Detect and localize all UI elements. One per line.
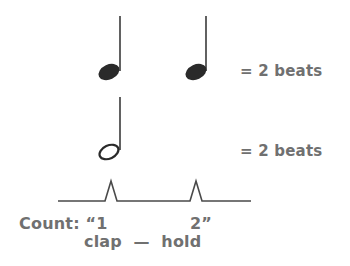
clap-hold-text: clap — hold <box>84 232 201 251</box>
count-beat-2: 2” <box>190 214 212 233</box>
half-note-icon <box>97 97 121 162</box>
quarter-note-icon <box>96 16 122 83</box>
quarter-note-icon <box>183 16 209 83</box>
beat-pulse-line <box>58 181 251 201</box>
quarter-notes-equation: = 2 beats <box>240 62 322 80</box>
count-label: Count: “1 <box>19 214 108 233</box>
half-note-equation: = 2 beats <box>240 142 322 160</box>
clap-hold-label: clap — hold <box>84 232 201 251</box>
